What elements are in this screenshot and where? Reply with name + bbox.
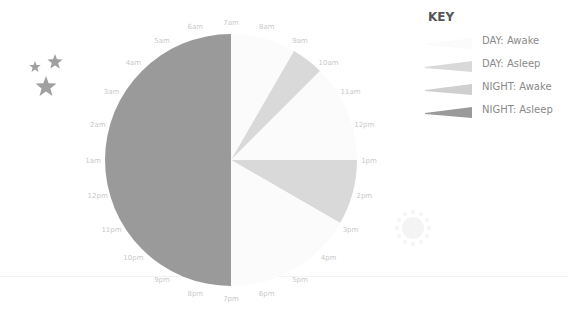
hour-label: 10pm — [123, 254, 143, 262]
legend-label: NIGHT: Awake — [482, 81, 552, 92]
hour-label: 2am — [90, 121, 106, 129]
hour-label: 4am — [126, 59, 142, 67]
hour-label: 5am — [154, 37, 170, 45]
legend: KEY DAY: AwakeDAY: AsleepNIGHT: AwakeNIG… — [425, 10, 454, 126]
hour-label: 5pm — [292, 276, 308, 284]
legend-swatch — [425, 107, 472, 118]
sun-icon — [395, 210, 431, 246]
hour-label: 9pm — [154, 276, 170, 284]
legend-item: NIGHT: Awake — [425, 80, 454, 103]
legend-swatch — [425, 38, 472, 49]
hour-label: 7pm — [223, 295, 239, 303]
hour-label: 2pm — [356, 192, 372, 200]
hour-label: 8pm — [187, 290, 203, 298]
hour-label: 3am — [104, 88, 120, 96]
hour-label: 1pm — [361, 157, 377, 165]
legend-label: NIGHT: Asleep — [482, 104, 553, 115]
hour-label: 8am — [259, 23, 275, 31]
hour-label: 3pm — [343, 226, 359, 234]
hour-label: 9am — [292, 37, 308, 45]
hour-label: 6am — [188, 23, 204, 31]
hour-label: 10am — [319, 59, 339, 67]
hour-label: 11am — [341, 88, 361, 96]
hour-label: 1am — [85, 157, 101, 165]
stars-icon — [29, 54, 62, 96]
pie-segment-night-asleep — [105, 34, 231, 286]
legend-item: DAY: Awake — [425, 34, 454, 57]
hour-label: 12pm — [88, 192, 108, 200]
hour-label: 6pm — [259, 290, 275, 298]
legend-item: NIGHT: Asleep — [425, 103, 454, 126]
legend-swatch — [425, 84, 472, 95]
hour-label: 7am — [223, 19, 239, 27]
sleep-pie-chart: 7am8am9am10am11am12pm1pm2pm3pm4pm5pm6pm7… — [0, 0, 568, 316]
hour-label: 11pm — [101, 226, 121, 234]
legend-label: DAY: Asleep — [482, 58, 540, 69]
legend-label: DAY: Awake — [482, 35, 539, 46]
legend-item: DAY: Asleep — [425, 57, 454, 80]
legend-title: KEY — [428, 10, 454, 24]
hour-label: 12pm — [354, 121, 374, 129]
legend-swatch — [425, 61, 472, 72]
hour-label: 4pm — [321, 254, 337, 262]
